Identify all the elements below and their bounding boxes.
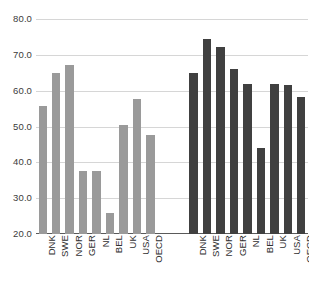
y-tick-label: 50.0	[13, 122, 32, 132]
x-tick-label: SWE	[211, 235, 221, 257]
bar	[146, 135, 154, 234]
bar	[52, 73, 60, 234]
y-tick-label: 40.0	[13, 158, 32, 168]
bar-chart: 20.030.040.050.060.070.080.0 DNKSWENORGE…	[0, 0, 309, 284]
bar	[203, 39, 211, 234]
bar	[230, 69, 238, 234]
x-tick-label: BEL	[265, 235, 275, 253]
bar	[79, 171, 87, 234]
y-tick-label: 60.0	[13, 86, 32, 96]
y-axis: 20.030.040.050.060.070.080.0	[0, 0, 34, 284]
x-tick-label: BEL	[114, 235, 124, 253]
bar	[216, 47, 224, 234]
x-tick-label: NL	[251, 235, 261, 247]
bar	[106, 213, 114, 235]
x-tick-label: UK	[128, 235, 138, 248]
bar	[243, 84, 251, 234]
y-tick-label: 30.0	[13, 193, 32, 203]
x-tick-label: OECD	[154, 235, 164, 263]
x-tick-label: GER	[87, 235, 97, 256]
x-tick-label: UK	[278, 235, 288, 248]
x-tick-label: DNK	[198, 235, 208, 255]
bar	[65, 65, 73, 234]
x-tick-label: SWE	[60, 235, 70, 257]
x-tick-label: NOR	[74, 235, 84, 256]
bar	[133, 99, 141, 234]
x-tick-label: DNK	[47, 235, 57, 255]
bar	[297, 97, 305, 234]
bar	[257, 148, 265, 234]
x-tick-label: USA	[292, 235, 302, 255]
x-tick-label: GER	[238, 235, 248, 256]
bar	[284, 85, 292, 234]
x-tick-label: USA	[141, 235, 151, 255]
bar	[119, 125, 127, 234]
x-tick-label: NOR	[224, 235, 234, 256]
y-tick-label: 70.0	[13, 50, 32, 60]
bar	[39, 106, 47, 234]
bar	[189, 73, 197, 234]
x-axis: DNKSWENORGERNLBELUKUSAOECDDNKSWENORGERNL…	[36, 235, 308, 284]
x-tick-label: OECD	[305, 235, 309, 263]
bars-layer	[36, 19, 308, 234]
x-tick-label: NL	[101, 235, 111, 247]
bar	[92, 171, 100, 234]
bar	[270, 84, 278, 234]
y-tick-label: 20.0	[13, 229, 32, 239]
y-tick-label: 80.0	[13, 14, 32, 24]
